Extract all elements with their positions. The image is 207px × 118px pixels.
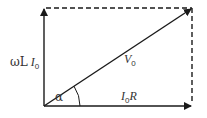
vertical-vector-label: ωLI0 bbox=[10, 55, 40, 71]
horizontal-vector-label: I0R bbox=[120, 89, 137, 105]
phasor-diagram: ωLI0 V0 α I0R bbox=[0, 0, 207, 118]
resultant-vector-arrow bbox=[44, 9, 191, 106]
resultant-vector-label: V0 bbox=[124, 52, 136, 68]
angle-label: α bbox=[55, 90, 63, 104]
angle-arc bbox=[74, 86, 80, 106]
